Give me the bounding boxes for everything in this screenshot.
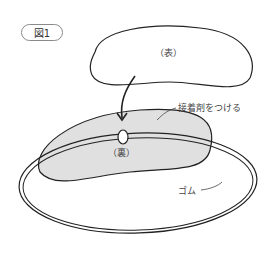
elastic-label: ゴム (178, 184, 196, 197)
figure-badge: 図1 (21, 24, 63, 41)
glue-label: 接着剤をつける (178, 101, 241, 114)
front-label: （表） (155, 46, 182, 59)
diagram: 図1 （表） （裏） 接着剤をつける ゴム (0, 0, 269, 253)
back-label: （裏） (108, 146, 135, 159)
knot-shape (118, 130, 128, 144)
elastic-leader-line (201, 182, 222, 190)
